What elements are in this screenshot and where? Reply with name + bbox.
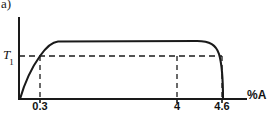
- y-axis-label: T1: [3, 47, 15, 65]
- x-tick-label-4: 4: [164, 100, 190, 112]
- y-axis-label-subscript: 1: [9, 57, 14, 67]
- x-axis-title: %A: [247, 88, 266, 102]
- x-tick-label-0-3: 0.3: [26, 100, 54, 112]
- phase-diagram-figure: a) T1 0.3 4 4.6 %A: [0, 0, 274, 119]
- x-tick-label-4-6: 4.6: [207, 100, 237, 112]
- envelope-curve: [20, 41, 223, 99]
